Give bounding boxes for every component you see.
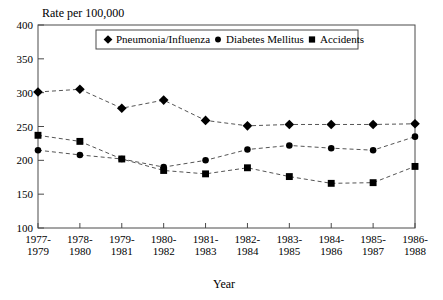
legend-item-label: Diabetes Mellitus [226,33,304,45]
x-axis-title: Year [213,277,235,291]
x-tick-label: 1980- [151,233,177,245]
legend-marker-circle-icon [215,37,221,43]
data-point-circle-icon [370,147,377,154]
legend-item-label: Pneumonia/Influenza [116,33,210,45]
legend-marker-square-icon [309,36,315,42]
y-tick-label: 200 [17,154,34,166]
y-tick-label: 250 [17,121,34,133]
x-tick-label: 1980 [69,245,92,257]
data-point-circle-icon [202,157,209,164]
x-tick-label: 1979 [27,245,50,257]
data-point-square-icon [35,132,42,139]
x-tick-label: 1982- [235,233,261,245]
x-tick-label: 1982 [153,245,175,257]
x-tick-label: 1985- [360,233,386,245]
x-tick-label: 1986 [320,245,343,257]
data-point-circle-icon [412,133,419,140]
x-tick-label: 1987 [362,245,385,257]
x-tick-label: 1981 [111,245,133,257]
y-tick-label: 300 [17,87,34,99]
chart-legend: Pneumonia/InfluenzaDiabetes MellitusAcci… [96,30,364,49]
data-point-square-icon [370,179,377,186]
x-tick-label: 1984- [318,233,344,245]
y-tick-label: 400 [17,19,34,31]
x-tick-label: 1983 [195,245,218,257]
data-point-square-icon [244,164,251,171]
x-tick-label: 1983- [276,233,302,245]
data-point-square-icon [202,170,209,177]
legend-item-label: Accidents [320,33,364,45]
y-tick-label: 350 [17,53,34,65]
data-point-square-icon [412,163,419,170]
x-tick-label: 1985 [278,245,301,257]
data-point-square-icon [160,167,167,174]
data-point-circle-icon [244,146,251,153]
y-axis-title: Rate per 100,000 [42,6,124,20]
data-point-square-icon [118,156,125,163]
data-point-circle-icon [286,142,293,149]
x-tick-label: 1986- [402,233,428,245]
plot-area-border [38,25,415,228]
data-point-square-icon [328,180,335,187]
x-tick-label: 1978- [67,233,93,245]
data-point-square-icon [286,173,293,180]
data-point-circle-icon [328,145,335,152]
rate-per-100000-line-chart: 100150200250300350400 1977-19791978-1980… [0,0,443,300]
y-tick-label: 150 [17,188,34,200]
x-tick-label: 1988 [404,245,427,257]
x-tick-label: 1979- [109,233,135,245]
chart-page: 100150200250300350400 1977-19791978-1980… [0,0,443,300]
data-point-square-icon [76,138,83,145]
x-tick-label: 1984 [236,245,259,257]
x-tick-label: 1977- [25,233,51,245]
data-point-circle-icon [77,152,84,159]
plot-frame [38,25,415,228]
x-tick-label: 1981- [193,233,219,245]
data-point-circle-icon [35,147,42,154]
